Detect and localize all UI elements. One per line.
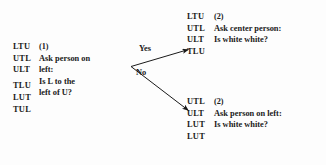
permutation-item: LTU: [187, 11, 205, 23]
permutation-item: TLU: [13, 80, 31, 92]
node-marker: (1): [39, 41, 90, 53]
node-no-branch: UTL ULT LUT LUT (2) Ask person on left: …: [187, 96, 282, 142]
node-yes-branch: LTU UTL ULT TLU (2) Ask center person: I…: [187, 11, 281, 57]
permutation-item: TLU: [187, 46, 205, 58]
permutation-item: LUT: [187, 131, 205, 143]
permutation-item: ULT: [187, 108, 205, 120]
permutation-item: ULT: [13, 64, 31, 76]
permutation-item: TUL: [13, 104, 31, 116]
question-line: Ask center person:: [214, 23, 281, 35]
edge-label-yes: Yes: [139, 44, 151, 54]
figure-canvas: Yes No LTU UTL ULT TLU LUT TUL (1) Ask p…: [0, 0, 326, 165]
question-line: Ask person on: [39, 53, 90, 65]
permutation-item: LUT: [13, 92, 31, 104]
node-root-text: (1) Ask person on left: Is L to the left…: [39, 41, 90, 99]
question-line: Is white white?: [214, 34, 281, 46]
permutation-item: LTU: [13, 41, 31, 53]
node-root-permutations: LTU UTL ULT TLU LUT TUL: [13, 41, 31, 115]
permutation-item: UTL: [187, 96, 205, 108]
node-yes-permutations: LTU UTL ULT TLU: [187, 11, 205, 57]
question-line: Is L to the: [39, 76, 90, 88]
node-yes-text: (2) Ask center person: Is white white?: [214, 11, 281, 46]
node-no-permutations: UTL ULT LUT LUT: [187, 96, 205, 142]
permutation-item: UTL: [13, 53, 31, 65]
node-marker: (2): [214, 96, 282, 108]
node-marker: (2): [214, 11, 281, 23]
node-no-text: (2) Ask person on left: Is white white?: [214, 96, 282, 131]
question-line: left of U?: [39, 87, 90, 99]
question-line: left:: [39, 64, 90, 76]
permutation-item: ULT: [187, 34, 205, 46]
node-root: LTU UTL ULT TLU LUT TUL (1) Ask person o…: [13, 41, 90, 115]
edge-label-no: No: [136, 68, 146, 78]
permutation-item: LUT: [187, 119, 205, 131]
question-line: Is white white?: [214, 119, 282, 131]
permutation-item: UTL: [187, 23, 205, 35]
question-line: Ask person on left:: [214, 108, 282, 120]
